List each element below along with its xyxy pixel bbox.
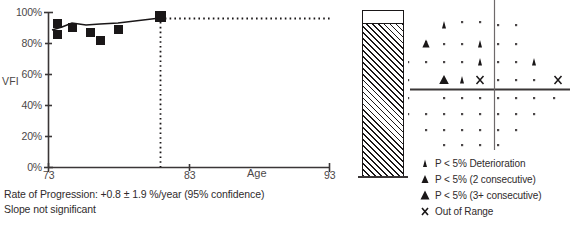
dot-symbol (425, 129, 427, 131)
dot-symbol (515, 97, 517, 99)
vfi-bar-baseline (358, 176, 408, 178)
dot-symbol (461, 129, 463, 131)
x-mark-symbol (477, 76, 484, 84)
data-point (155, 11, 166, 22)
small-triangle-icon (418, 156, 432, 170)
dot-symbol (461, 144, 463, 146)
legend-label-three-plus-consecutive: P < 5% (3+ consecutive) (435, 190, 541, 201)
x-mark-icon (418, 204, 432, 218)
dot-symbol (497, 129, 499, 131)
probability-plot-svg (408, 0, 570, 150)
dot-symbol (461, 61, 463, 63)
x-tick-label-83: 83 (184, 169, 195, 181)
y-tick-label-80: 80% (2, 37, 42, 49)
data-point (96, 36, 105, 45)
x-axis-title: Age (247, 167, 267, 179)
x-mark-symbol (555, 76, 562, 84)
dot-symbol (461, 43, 463, 45)
slope-significance-text: Slope not significant (4, 202, 344, 217)
dot-symbol (497, 144, 499, 146)
small-triangle-symbol (478, 58, 482, 66)
y-axis-title: VFI (2, 75, 19, 87)
x-tick-label-93: 93 (324, 169, 335, 181)
y-tick-label-20: 20% (2, 130, 42, 142)
dot-symbol (425, 113, 427, 115)
large-triangle-icon (418, 188, 432, 202)
medium-triangle-symbol (422, 40, 429, 48)
dot-symbol (533, 97, 535, 99)
dot-symbol (533, 113, 535, 115)
vfi-bar-indicator (362, 10, 404, 177)
small-triangle-symbol (460, 76, 464, 84)
dot-symbol (408, 61, 409, 63)
dot-symbol (443, 61, 445, 63)
dot-symbol (461, 97, 463, 99)
legend-label-two-consecutive: P < 5% (2 consecutive) (435, 174, 536, 185)
dot-symbol (443, 144, 445, 146)
dot-symbol (515, 43, 517, 45)
small-triangle-symbol (532, 58, 536, 66)
dot-symbol (479, 113, 481, 115)
data-point (68, 23, 77, 32)
vfi-chart-svg (0, 0, 345, 185)
dot-symbol (515, 113, 517, 115)
data-point (53, 30, 62, 39)
dot-symbol (443, 113, 445, 115)
dot-symbol (461, 21, 463, 23)
medium-triangle-icon (418, 172, 432, 186)
legend-item-three-plus-consecutive: P < 5% (3+ consecutive) (418, 187, 570, 203)
dot-symbol (497, 61, 499, 63)
dot-symbol (408, 79, 409, 81)
large-triangle-symbol (439, 75, 449, 84)
dot-symbol (443, 129, 445, 131)
data-point (114, 25, 123, 34)
dot-symbol (515, 79, 517, 81)
rate-of-progression-text: Rate of Progression: +0.8 ± 1.9 %/year (… (4, 187, 344, 202)
x-tick-label-73: 73 (43, 169, 54, 181)
dot-symbol (479, 129, 481, 131)
vfi-progression-chart: 100% 80% 60% 40% 20% 0% VFI 73 83 93 Age (0, 0, 345, 185)
y-tick-label-100: 100% (2, 6, 42, 18)
dot-symbol (497, 43, 499, 45)
dot-symbol (479, 21, 481, 23)
dot-symbol (408, 97, 409, 99)
dot-symbol (461, 113, 463, 115)
legend-item-out-of-range: Out of Range (418, 203, 570, 219)
legend-item-deterioration: P < 5% Deterioration (418, 155, 570, 171)
dot-symbol (515, 129, 517, 131)
legend-item-two-consecutive: P < 5% (2 consecutive) (418, 171, 570, 187)
dot-symbol (443, 97, 445, 99)
dot-symbol (497, 113, 499, 115)
small-triangle-symbol (442, 21, 446, 29)
vfi-progression-screenshot: 100% 80% 60% 40% 20% 0% VFI 73 83 93 Age… (0, 0, 570, 232)
data-point (86, 28, 95, 37)
dot-symbol (497, 79, 499, 81)
dot-symbol (479, 97, 481, 99)
dot-symbol (553, 97, 555, 99)
dot-symbol (443, 43, 445, 45)
dot-symbol (533, 79, 535, 81)
y-tick-label-0: 0% (2, 161, 42, 173)
dot-symbol (497, 24, 499, 26)
legend-label-out-of-range: Out of Range (435, 206, 493, 217)
dot-symbol (515, 61, 517, 63)
progression-summary: Rate of Progression: +0.8 ± 1.9 %/year (… (4, 187, 344, 217)
data-point (53, 19, 62, 28)
y-tick-label-40: 40% (2, 99, 42, 111)
vfi-bar-hatched-fill (363, 23, 403, 176)
small-triangle-symbol (478, 40, 482, 48)
dot-symbol (408, 113, 409, 115)
dot-symbol (425, 61, 427, 63)
probability-legend: P < 5% Deterioration P < 5% (2 consecuti… (418, 155, 570, 219)
dot-symbol (479, 144, 481, 146)
legend-label-deterioration: P < 5% Deterioration (435, 158, 525, 169)
dot-symbol (515, 24, 517, 26)
probability-symbols (408, 21, 562, 146)
dot-symbol (497, 97, 499, 99)
measurement-markers (53, 11, 166, 45)
probability-plot (408, 0, 570, 150)
